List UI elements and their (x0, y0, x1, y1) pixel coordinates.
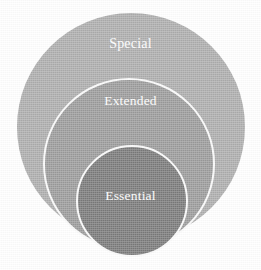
circle-label-special: Special (0, 36, 261, 52)
circle-label-extended: Extended (0, 93, 261, 109)
circle-label-essential: Essential (0, 188, 261, 204)
concentric-circles-diagram: Special Extended Essential (0, 0, 261, 270)
